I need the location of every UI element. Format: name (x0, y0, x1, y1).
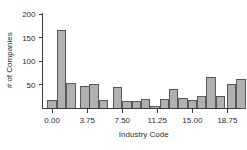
x-axis-title: Industry Code (119, 130, 169, 139)
bar (90, 84, 98, 108)
bar (169, 89, 177, 108)
x-tick-label: 7.50 (114, 116, 130, 125)
y-axis-title: # of Companies (5, 32, 14, 88)
bar (216, 96, 224, 108)
bars-group (48, 30, 245, 108)
y-tick-label: 200 (22, 10, 36, 19)
bar (132, 101, 140, 108)
bar (188, 100, 196, 108)
x-tick-label: 15.00 (182, 116, 203, 125)
x-axis-ticks: 0.003.757.5011.2515.0018.75 (44, 109, 238, 125)
bar (198, 97, 206, 109)
histogram-chart: 0.003.757.5011.2515.0018.75 50100150200 … (0, 0, 247, 150)
bar (99, 101, 107, 109)
bar (57, 30, 65, 108)
y-tick-label: 100 (22, 57, 36, 66)
bar (227, 84, 235, 108)
x-tick-label: 18.75 (217, 116, 238, 125)
bar (160, 100, 168, 109)
x-tick-label: 11.25 (148, 116, 168, 125)
bar (207, 77, 215, 108)
bar (81, 86, 89, 108)
y-tick-label: 50 (27, 81, 36, 90)
y-tick-label: 150 (22, 34, 36, 43)
bar (141, 100, 149, 109)
bar (48, 100, 56, 108)
chart-canvas: 0.003.757.5011.2515.0018.75 50100150200 … (0, 0, 247, 150)
y-axis-ticks: 50100150200 (22, 10, 42, 90)
bar (113, 87, 121, 108)
bar (237, 79, 245, 108)
bar (179, 98, 187, 108)
x-tick-label: 3.75 (79, 116, 95, 125)
bar (123, 102, 131, 109)
bar (67, 84, 75, 109)
x-tick-label: 0.00 (44, 116, 60, 125)
